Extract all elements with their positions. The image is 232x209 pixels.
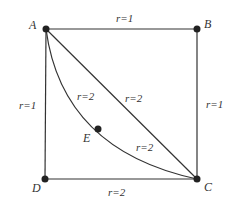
weight-ad: r=1 bbox=[19, 99, 36, 111]
node-b bbox=[194, 26, 201, 33]
label-d: D bbox=[31, 181, 41, 195]
label-c: C bbox=[204, 180, 213, 194]
label-a: A bbox=[28, 18, 37, 32]
edge-ad bbox=[45, 29, 46, 179]
graph-diagram: A B C D E r=1 r=1 r=1 r=2 r=2 r=2 r=2 bbox=[0, 0, 232, 209]
node-a bbox=[43, 26, 50, 33]
weight-ec: r=2 bbox=[136, 141, 154, 153]
label-b: B bbox=[204, 17, 212, 31]
weight-ae: r=2 bbox=[77, 90, 95, 102]
weight-dc: r=2 bbox=[108, 186, 126, 198]
label-e: E bbox=[82, 131, 91, 145]
weight-bc: r=1 bbox=[206, 98, 223, 110]
weight-ac: r=2 bbox=[125, 92, 143, 104]
node-c bbox=[194, 176, 201, 183]
weight-ab: r=1 bbox=[116, 12, 133, 24]
node-d bbox=[42, 176, 49, 183]
edge-ac bbox=[46, 29, 197, 179]
node-e bbox=[95, 126, 102, 133]
